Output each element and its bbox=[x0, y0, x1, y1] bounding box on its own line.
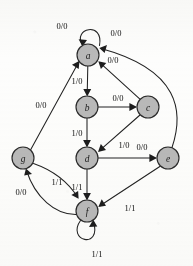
edge-b-to-d-label: 1/0 bbox=[72, 128, 83, 138]
edge-d-to-e-label: 0/0 bbox=[137, 142, 148, 152]
edge-c-to-d-arrowhead bbox=[98, 144, 106, 152]
edge-f-to-g-arrowhead bbox=[24, 169, 32, 176]
edge-a-to-a: 0/0 bbox=[57, 21, 100, 47]
edge-f-to-g: 0/0 bbox=[16, 169, 77, 215]
state-diagram-canvas: 0/0 0/0 0/0 1/0 bbox=[0, 0, 193, 266]
state-diagram-container: 0/0 0/0 0/0 1/0 bbox=[0, 0, 193, 266]
edge-b-to-c-label: 0/0 bbox=[113, 93, 124, 103]
edge-e-to-f-path bbox=[100, 166, 160, 206]
state-node-e[interactable]: e bbox=[157, 147, 179, 169]
edge-e-to-a-arrowhead bbox=[99, 45, 107, 53]
edge-d-to-e-arrowhead bbox=[149, 154, 157, 162]
edge-a-to-b-arrowhead bbox=[83, 89, 91, 97]
edge-e-to-f: 1/1 bbox=[98, 166, 160, 213]
edge-b-to-c: 0/0 bbox=[98, 93, 137, 111]
state-node-a-label: a bbox=[86, 51, 91, 61]
edge-c-to-a-label: 0/0 bbox=[108, 55, 119, 65]
edge-c-to-d: 1/0 bbox=[98, 115, 140, 152]
state-node-c[interactable]: c bbox=[137, 96, 159, 118]
edge-f-to-f-label: 1/1 bbox=[92, 249, 103, 259]
edge-a-to-b-label: 1/0 bbox=[72, 76, 83, 86]
state-node-e-label: e bbox=[166, 154, 170, 164]
edge-e-to-a: 0/0 bbox=[99, 28, 177, 148]
edge-f-to-g-label: 0/0 bbox=[16, 187, 27, 197]
edge-b-to-d-arrowhead bbox=[83, 140, 91, 148]
edge-d-to-f-arrowhead bbox=[83, 193, 91, 201]
edge-b-to-d: 1/0 bbox=[72, 118, 91, 148]
edge-e-to-f-label: 1/1 bbox=[125, 203, 136, 213]
state-node-a[interactable]: a bbox=[77, 44, 99, 66]
nodes-layer: a b c d e f bbox=[12, 44, 179, 222]
edge-g-to-f-arrowhead bbox=[71, 191, 78, 199]
state-node-d-label: d bbox=[85, 154, 90, 164]
state-node-b[interactable]: b bbox=[76, 96, 98, 118]
edge-a-to-a-label: 0/0 bbox=[57, 21, 68, 31]
state-node-g-label: g bbox=[21, 154, 26, 164]
edge-g-to-a-label: 0/0 bbox=[36, 100, 47, 110]
state-node-b-label: b bbox=[85, 103, 90, 113]
edge-c-to-d-label: 1/0 bbox=[119, 140, 130, 150]
edge-f-to-f: 1/1 bbox=[77, 220, 102, 259]
edge-b-to-c-arrowhead bbox=[129, 103, 137, 111]
state-node-d[interactable]: d bbox=[76, 147, 98, 169]
edge-e-to-a-label: 0/0 bbox=[111, 28, 122, 38]
state-node-f[interactable]: f bbox=[76, 200, 98, 222]
state-node-g[interactable]: g bbox=[12, 147, 34, 169]
edge-g-to-f-label: 1/1 bbox=[52, 177, 63, 187]
